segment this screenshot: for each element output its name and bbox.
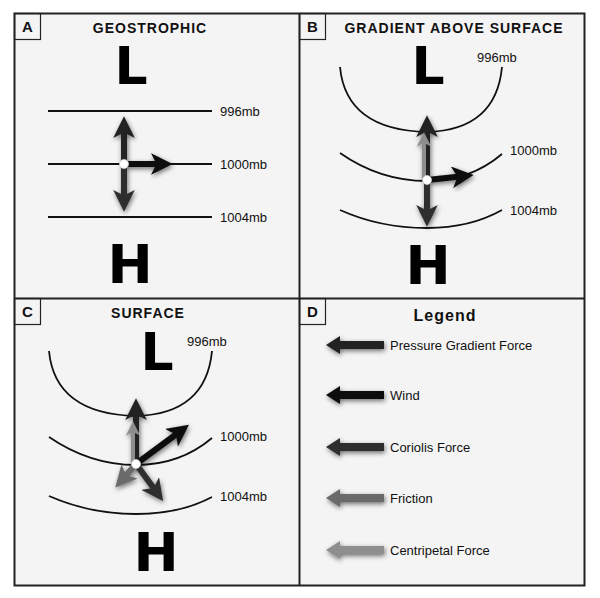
legend-title: Legend [414,307,477,324]
legend-label: Friction [390,491,433,506]
legend-label: Wind [390,388,420,403]
isobar-label-1000: 1000mb [510,143,557,158]
low-pressure-label: L [411,36,444,96]
panel-title: SURFACE [111,305,185,321]
isobar-label-1004: 1004mb [220,489,267,504]
high-pressure-label: H [107,233,152,296]
wind-forces-diagram: A GEOSTROPHIC L H 996mb 1000mb 1004mb B … [0,0,600,598]
air-parcel-dot [423,176,432,185]
low-pressure-label: L [140,322,173,382]
wind-arrow [427,176,465,180]
panel-letter: B [307,18,318,35]
isobar-label-996: 996mb [220,104,260,119]
legend-label: Pressure Gradient Force [390,338,532,353]
legend-label: Coriolis Force [390,440,470,455]
isobar-label-996: 996mb [477,50,517,65]
legend-label: Centripetal Force [390,543,490,558]
panel-letter: A [22,18,33,35]
panel-letter: D [307,303,318,320]
air-parcel-dot [132,460,141,469]
isobar-label-1000: 1000mb [220,429,267,444]
high-pressure-label: H [133,521,178,584]
isobar-label-1004: 1004mb [220,210,267,225]
isobar-label-1000: 1000mb [220,157,267,172]
low-pressure-label: L [114,36,147,96]
panel-title: GEOSTROPHIC [93,20,207,36]
isobar-label-996: 996mb [187,334,227,349]
high-pressure-label: H [405,234,450,297]
panel-title: GRADIENT ABOVE SURFACE [344,20,563,36]
panel-letter: C [22,303,33,320]
air-parcel-dot [120,160,129,169]
isobar-label-1004: 1004mb [510,203,557,218]
